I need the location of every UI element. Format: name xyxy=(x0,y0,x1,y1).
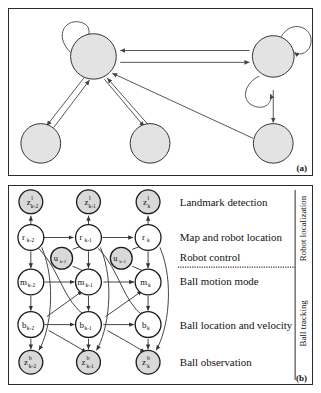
row-label-robot-control: Robot control xyxy=(180,251,240,263)
node-b-k-1[interactable]: b k-1 xyxy=(76,312,102,338)
svg-text:k: k xyxy=(147,325,150,331)
svg-text:z: z xyxy=(24,357,28,367)
node-zl-k-2[interactable]: z l k-2 xyxy=(19,190,43,214)
svg-text:k-2: k-2 xyxy=(60,259,67,264)
row-label-ball-observation: Ball observation xyxy=(180,356,252,368)
svg-text:b: b xyxy=(86,355,89,361)
node-zb-k[interactable]: z b k xyxy=(136,350,160,374)
svg-text:k: k xyxy=(147,363,150,369)
node-bottom-mid[interactable] xyxy=(130,124,170,164)
node-zb-k-2[interactable]: z b k-2 xyxy=(19,350,43,374)
svg-text:k-2: k-2 xyxy=(28,282,36,288)
svg-text:k-2: k-2 xyxy=(27,325,35,331)
edge-r-k-to-zb-k xyxy=(156,247,168,350)
edge-r-k-2-to-zb-k-2 xyxy=(39,247,51,350)
svg-text:b: b xyxy=(147,355,150,361)
row-label-ball-motion-mode: Ball motion mode xyxy=(180,275,259,287)
node-top-right[interactable] xyxy=(252,36,294,78)
row-label-landmark-detection: Landmark detection xyxy=(180,196,268,208)
panel-b: z l k-2 z l k-1 z l k r k-2 xyxy=(8,185,313,385)
node-r-k-2[interactable]: r k-2 xyxy=(18,225,44,251)
edge-b-k-2-to-m-k-1 xyxy=(47,291,83,317)
svg-text:k: k xyxy=(148,282,151,288)
node-m-k-1[interactable]: m k-1 xyxy=(76,269,102,295)
node-m-k[interactable]: m k xyxy=(135,269,161,295)
node-top-left[interactable] xyxy=(71,34,117,79)
self-loop-top-right-lower xyxy=(245,76,270,107)
node-r-k[interactable]: r k xyxy=(135,225,161,251)
svg-text:m: m xyxy=(20,277,27,287)
panel-b-graph: z l k-2 z l k-1 z l k r k-2 xyxy=(9,186,312,384)
node-zb-k-1[interactable]: z b k-1 xyxy=(77,350,101,374)
edge-b-k-1-to-m-k xyxy=(105,291,142,317)
svg-text:k-1: k-1 xyxy=(85,237,93,243)
svg-text:k-2: k-2 xyxy=(31,203,39,209)
edge-left-to-bottomleft xyxy=(47,77,85,125)
svg-text:k-1: k-1 xyxy=(88,203,96,209)
row-label-map-robot-location: Map and robot location xyxy=(180,231,283,243)
panel-a-graph xyxy=(9,9,312,175)
svg-text:m: m xyxy=(140,277,147,287)
node-bottom-right[interactable] xyxy=(253,124,293,164)
svg-text:b: b xyxy=(29,355,32,361)
svg-text:z: z xyxy=(82,357,86,367)
svg-text:z: z xyxy=(143,197,147,207)
node-bottom-left[interactable] xyxy=(21,124,61,164)
panel-a-tag: (a) xyxy=(297,163,308,173)
edge-bottomright-to-left xyxy=(112,73,253,138)
panel-b-tag: (b) xyxy=(296,373,307,383)
node-zl-k-1[interactable]: z l k-1 xyxy=(77,190,101,214)
svg-text:r: r xyxy=(22,232,25,242)
edge-bottomleft-to-left xyxy=(54,80,90,127)
row-label-ball-location: Ball location and velocity xyxy=(180,319,293,331)
svg-text:z: z xyxy=(142,357,146,367)
svg-text:k-1: k-1 xyxy=(86,363,94,369)
node-zl-k[interactable]: z l k xyxy=(136,190,160,214)
node-r-k-1[interactable]: r k-1 xyxy=(76,225,102,251)
svg-text:k-1: k-1 xyxy=(119,259,126,264)
node-u-k-1[interactable]: u k-1 xyxy=(110,247,132,269)
svg-text:k-2: k-2 xyxy=(27,237,35,243)
node-b-k[interactable]: b k xyxy=(135,312,161,338)
node-b-k-2[interactable]: b k-2 xyxy=(18,312,44,338)
side-label-robot-localization: Robot localization xyxy=(298,195,308,261)
figure-root: (a) xyxy=(0,0,321,393)
svg-text:k-2: k-2 xyxy=(29,363,37,369)
svg-text:r: r xyxy=(80,232,83,242)
svg-text:k: k xyxy=(148,203,151,209)
panel-a: (a) xyxy=(8,8,313,176)
edge-bottommid-to-left xyxy=(107,78,148,124)
node-m-k-2[interactable]: m k-2 xyxy=(18,269,44,295)
node-u-k-2[interactable]: u k-2 xyxy=(51,247,73,269)
svg-text:r: r xyxy=(142,232,145,242)
edge-left-to-bottommid xyxy=(104,79,144,126)
edge-r-k-1-to-zb-k-1 xyxy=(96,247,108,350)
svg-text:m: m xyxy=(78,277,85,287)
svg-text:k-1: k-1 xyxy=(85,325,93,331)
svg-text:k-1: k-1 xyxy=(85,282,93,288)
svg-text:k: k xyxy=(147,237,150,243)
side-label-ball-tracking: Ball tracking xyxy=(298,300,308,347)
